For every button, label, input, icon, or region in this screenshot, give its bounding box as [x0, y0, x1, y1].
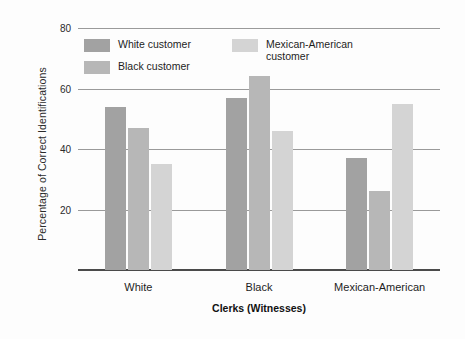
bar: [226, 98, 247, 270]
x-axis-tick-label: Mexican-American: [334, 281, 425, 293]
legend-swatch-icon: [84, 61, 110, 74]
legend-entry-black-customer: Black customer: [84, 60, 190, 74]
chart-legend: White customer Black customer Mexican-Am…: [84, 38, 374, 84]
legend-label: Mexican-American customer: [266, 38, 353, 62]
x-axis-title: Clerks (Witnesses): [78, 302, 440, 314]
x-axis-tick-label: Black: [246, 281, 273, 293]
y-axis-tick-label: 20: [60, 204, 71, 215]
y-axis-tick-label: 40: [60, 144, 71, 155]
legend-label: White customer: [118, 38, 191, 50]
bar-chart-figure: Percentage of Correct Identifications 20…: [0, 0, 465, 339]
bar: [249, 76, 270, 270]
legend-entry-white-customer: White customer: [84, 38, 191, 52]
bar: [346, 158, 367, 270]
bar: [128, 128, 149, 270]
y-axis-title: Percentage of Correct Identifications: [36, 34, 48, 274]
y-axis-tick-label: 60: [60, 83, 71, 94]
legend-entry-mexican-american-customer: Mexican-American customer: [232, 38, 353, 62]
y-axis-tick-label: 80: [60, 23, 71, 34]
bar: [151, 164, 172, 270]
legend-swatch-icon: [84, 39, 110, 52]
x-axis-tick-label: White: [124, 281, 152, 293]
bar: [369, 191, 390, 270]
bar: [105, 107, 126, 270]
legend-swatch-icon: [232, 39, 258, 52]
bar: [392, 104, 413, 270]
bar: [272, 131, 293, 270]
legend-label: Black customer: [118, 60, 190, 72]
